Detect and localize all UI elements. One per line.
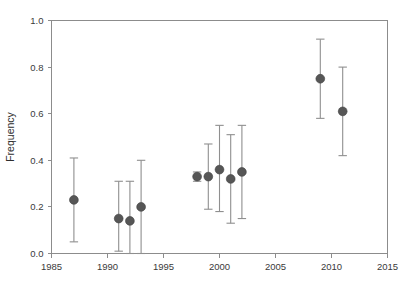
x-tick-label: 1990 [97,261,118,272]
data-point-marker [125,216,134,225]
y-tick-label: 0.2 [30,201,43,212]
y-axis-title-text: Frequency [4,111,16,161]
x-tick-label: 2015 [377,261,398,272]
data-point-marker [204,172,213,181]
chart-container: 0.00.20.40.60.81.0 198519901995200020052… [0,0,407,286]
y-tick-label: 0.0 [30,248,43,259]
data-point-group [193,172,202,181]
x-tick-label: 1995 [153,261,174,272]
chart-background [0,0,407,286]
scatter-plot-with-error-bars: 0.00.20.40.60.81.0 198519901995200020052… [0,0,407,286]
data-point-marker [137,203,146,212]
data-point-marker [70,196,79,205]
y-tick-label: 0.8 [30,62,43,73]
x-tick-label: 2000 [209,261,230,272]
y-tick-label: 0.4 [30,155,43,166]
y-axis-title: Frequency [4,111,16,161]
data-point-marker [215,165,224,174]
data-point-marker [238,168,247,177]
y-tick-label: 1.0 [30,15,43,26]
x-tick-label: 1985 [41,261,62,272]
data-point-marker [193,172,202,181]
y-tick-label: 0.6 [30,108,43,119]
x-tick-label: 2010 [321,261,342,272]
data-point-marker [226,175,235,184]
data-point-marker [316,74,325,83]
data-point-marker [338,107,347,116]
x-tick-label: 2005 [265,261,286,272]
data-point-marker [114,214,123,223]
